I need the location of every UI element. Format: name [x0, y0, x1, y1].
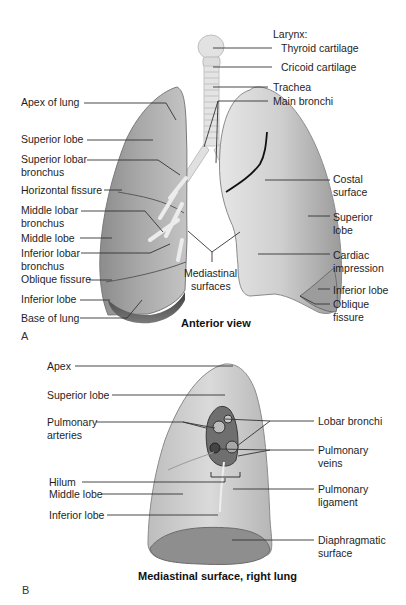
label-lobar-bronchi: Lobar bronchi: [318, 415, 382, 428]
panel-letter-b: B: [22, 584, 29, 596]
label-pulmonary-veins-1: Pulmonary: [318, 444, 368, 457]
label-superior-lobe-left: Superior lobe: [21, 133, 83, 146]
label-pulmonary-ligament-2: ligament: [318, 496, 358, 509]
label-inferior-lobe-left: Inferior lobe: [21, 293, 76, 306]
label-oblique-fissure-left: Oblique fissure: [21, 273, 91, 286]
label-cardiac-impression-2: impression: [333, 262, 384, 275]
label-oblique-fissure-right-1: Oblique: [333, 298, 369, 311]
label-trachea: Trachea: [273, 81, 311, 94]
label-base-of-lung: Base of lung: [21, 312, 79, 325]
left-lung-anterior: [219, 87, 341, 314]
label-costal-surface-2: surface: [333, 186, 367, 199]
label-apex-of-lung: Apex of lung: [21, 96, 79, 109]
label-superior-lobar-bronchus-2: bronchus: [21, 166, 64, 179]
right-lung-anterior: [100, 87, 187, 323]
label-superior-lobe-right-2: lobe: [333, 224, 353, 237]
label-oblique-fissure-right-2: fissure: [333, 311, 364, 324]
label-middle-lobar-bronchus-2: bronchus: [21, 217, 64, 230]
label-inferior-lobe-right: Inferior lobe: [333, 284, 388, 297]
label-diaphragmatic-surface-1: Diaphragmatic: [318, 534, 386, 547]
caption-anterior-view: Anterior view: [181, 317, 251, 329]
label-cricoid-cartilage: Cricoid cartilage: [281, 61, 356, 74]
label-superior-lobe-b: Superior lobe: [47, 389, 109, 402]
label-pulmonary-veins-2: veins: [318, 457, 343, 470]
label-superior-lobe-right-1: Superior: [333, 211, 373, 224]
label-main-bronchi: Main bronchi: [273, 95, 333, 108]
caption-mediastinal-surface: Mediastinal surface, right lung: [138, 570, 297, 582]
label-middle-lobe: Middle lobe: [21, 232, 75, 245]
label-middle-lobar-bronchus-1: Middle lobar: [21, 204, 78, 217]
panel-letter-a: A: [21, 330, 28, 342]
label-diaphragmatic-surface-2: surface: [318, 547, 352, 560]
label-thyroid-cartilage: Thyroid cartilage: [281, 42, 359, 55]
label-pulmonary-arteries-1: Pulmonary: [47, 416, 97, 429]
right-lung-mediastinal: [148, 364, 272, 565]
label-inferior-lobar-bronchus-1: Inferior lobar: [21, 247, 80, 260]
label-pulmonary-arteries-2: arteries: [47, 429, 82, 442]
label-horizontal-fissure: Horizontal fissure: [21, 184, 102, 197]
label-superior-lobar-bronchus-1: Superior lobar: [21, 153, 87, 166]
label-middle-lobe-b: Middle lobe: [49, 488, 103, 501]
label-apex: Apex: [47, 360, 71, 373]
label-mediastinal-surfaces-1: Mediastinal: [184, 267, 237, 280]
label-hilum: Hilum: [49, 476, 76, 489]
label-mediastinal-surfaces-2: surfaces: [191, 280, 231, 293]
label-larynx: Larynx:: [273, 28, 307, 41]
label-cardiac-impression-1: Cardiac: [333, 249, 369, 262]
label-inferior-lobe-b: Inferior lobe: [49, 509, 104, 522]
label-inferior-lobar-bronchus-2: bronchus: [21, 260, 64, 273]
label-costal-surface-1: Costal: [333, 173, 363, 186]
label-pulmonary-ligament-1: Pulmonary: [318, 483, 368, 496]
